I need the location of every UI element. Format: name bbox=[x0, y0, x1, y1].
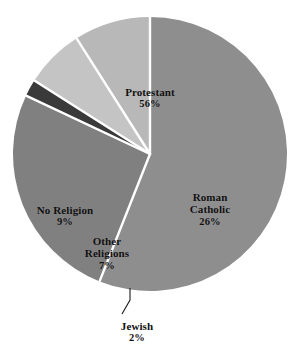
slice-label-no-religion: No Religion 9% bbox=[14, 204, 116, 228]
slice-label-other-religions-line2: Religions bbox=[68, 247, 146, 259]
slice-label-jewish-name: Jewish bbox=[95, 320, 179, 332]
slice-label-no-religion-name: No Religion bbox=[14, 204, 116, 216]
pie-chart-graphic bbox=[0, 0, 300, 361]
slice-label-other-religions-percent: 7% bbox=[68, 260, 146, 272]
slice-label-roman-catholic: Roman Catholic 26% bbox=[167, 191, 253, 227]
slice-label-other-religions-line1: Other bbox=[68, 235, 146, 247]
slice-label-jewish: Jewish 2% bbox=[95, 320, 179, 344]
slice-label-jewish-percent: 2% bbox=[95, 332, 179, 344]
slice-label-protestant: Protestant 56% bbox=[92, 86, 208, 110]
slice-label-roman-catholic-line1: Roman bbox=[167, 191, 253, 203]
slice-label-protestant-name: Protestant bbox=[92, 86, 208, 98]
slice-label-roman-catholic-percent: 26% bbox=[167, 216, 253, 228]
jewish-leader-line bbox=[122, 288, 130, 314]
pie-chart: Protestant 56% Roman Catholic 26% No Rel… bbox=[0, 0, 300, 361]
slice-label-other-religions: Other Religions 7% bbox=[68, 235, 146, 271]
slice-label-no-religion-percent: 9% bbox=[14, 216, 116, 228]
slice-label-protestant-percent: 56% bbox=[92, 98, 208, 110]
slice-label-roman-catholic-line2: Catholic bbox=[167, 203, 253, 215]
